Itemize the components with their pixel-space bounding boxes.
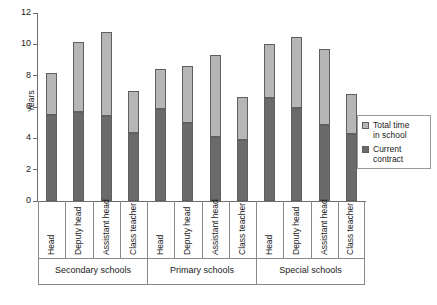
bar-stack <box>210 55 221 201</box>
stacked-bar-chart: Years 024681012 HeadDeputy headAssistant… <box>0 0 437 305</box>
x-group-cell: Special schools <box>256 259 365 285</box>
x-category-cell: Head <box>256 201 283 259</box>
x-category-label: Deputy head <box>291 207 301 255</box>
bar-stack <box>73 42 84 201</box>
x-category-label: Deputy head <box>182 207 192 255</box>
bar-segment-total-time <box>73 42 84 112</box>
legend-label-total-line2: in school <box>373 130 407 140</box>
y-tick-label: 0 <box>5 196 31 205</box>
bar-segment-total-time <box>46 73 57 115</box>
x-group-cell: Primary schools <box>147 259 256 285</box>
x-group-label: Secondary schools <box>39 265 147 275</box>
y-tick-mark <box>33 75 37 76</box>
y-tick-label: 4 <box>5 133 31 142</box>
x-category-cell: Class teacher <box>229 201 256 259</box>
x-category-cell: Deputy head <box>65 201 92 259</box>
bar-segment-total-time <box>237 97 248 140</box>
bar-stack <box>346 94 357 201</box>
bar-stack <box>101 32 112 201</box>
bar-stack <box>155 69 166 201</box>
x-group-label: Special schools <box>257 265 364 275</box>
x-category-label: Assistant head <box>318 199 328 255</box>
x-category-label: Assistant head <box>209 199 219 255</box>
legend-label-current: Current contract <box>373 144 403 164</box>
bar-segment-current-contract <box>128 133 139 201</box>
x-group-cell: Secondary schools <box>38 259 147 285</box>
bar-segment-total-time <box>128 91 139 133</box>
y-tick-mark <box>33 169 37 170</box>
y-tick-label: 10 <box>5 39 31 48</box>
bar-stack <box>291 37 302 201</box>
bar-segment-current-contract <box>73 112 84 201</box>
x-category-cell: Head <box>38 201 65 259</box>
x-group-label: Primary schools <box>148 265 256 275</box>
y-tick-label: 12 <box>5 8 31 17</box>
legend-label-current-line2: contract <box>373 154 403 164</box>
bar-stack <box>128 91 139 201</box>
bar-segment-current-contract <box>346 134 357 201</box>
bar-segment-total-time <box>346 94 357 134</box>
x-category-label: Class teacher <box>127 203 137 255</box>
bar-segment-total-time <box>155 69 166 110</box>
bar-segment-current-contract <box>210 137 221 201</box>
bar-stack <box>264 44 275 201</box>
x-category-cell: Head <box>147 201 174 259</box>
bar-segment-current-contract <box>46 115 57 201</box>
x-category-cell: Deputy head <box>283 201 310 259</box>
bar-segment-current-contract <box>101 116 112 201</box>
bar-segment-total-time <box>264 44 275 99</box>
bar-segment-current-contract <box>155 109 166 201</box>
bar-segment-current-contract <box>182 123 193 201</box>
y-tick-mark <box>33 138 37 139</box>
bar-segment-current-contract <box>319 125 330 201</box>
bar-segment-total-time <box>182 66 193 123</box>
x-category-cell: Class teacher <box>120 201 147 259</box>
x-category-cell: Assistant head <box>311 201 338 259</box>
x-category-cell: Class teacher <box>338 201 365 259</box>
x-category-label: Deputy head <box>73 207 83 255</box>
y-tick-mark <box>33 44 37 45</box>
y-tick-label: 8 <box>5 71 31 80</box>
x-category-cell: Assistant head <box>93 201 120 259</box>
plot-area <box>38 13 365 201</box>
x-category-cell: Deputy head <box>174 201 201 259</box>
legend-label-current-line1: Current <box>373 144 401 154</box>
y-tick-mark <box>33 13 37 14</box>
chart-legend: Total time in school Current contract <box>357 115 431 169</box>
legend-label-total-line1: Total time <box>373 120 409 130</box>
bar-segment-total-time <box>101 32 112 117</box>
bar-segment-total-time <box>291 37 302 108</box>
bar-segment-total-time <box>319 49 330 125</box>
legend-label-total: Total time in school <box>373 120 409 140</box>
y-tick-label: 6 <box>5 102 31 111</box>
bar-segment-current-contract <box>237 140 248 201</box>
x-category-cell: Assistant head <box>202 201 229 259</box>
x-category-label: Head <box>46 235 56 255</box>
legend-swatch-current-icon <box>362 146 369 153</box>
legend-item-total-time: Total time in school <box>362 120 427 140</box>
x-category-label: Head <box>155 235 165 255</box>
y-tick-label: 2 <box>5 165 31 174</box>
x-category-label: Assistant head <box>100 199 110 255</box>
bar-segment-total-time <box>210 55 221 136</box>
x-category-label: Head <box>264 235 274 255</box>
bar-stack <box>237 97 248 201</box>
y-tick-mark <box>33 107 37 108</box>
bar-stack <box>182 66 193 201</box>
legend-item-current-contract: Current contract <box>362 144 427 164</box>
x-category-label: Class teacher <box>236 203 246 255</box>
bar-stack <box>319 49 330 201</box>
bar-segment-current-contract <box>291 108 302 201</box>
x-category-label: Class teacher <box>345 203 355 255</box>
bar-segment-current-contract <box>264 98 275 201</box>
legend-swatch-total-icon <box>362 122 369 129</box>
bar-stack <box>46 73 57 201</box>
